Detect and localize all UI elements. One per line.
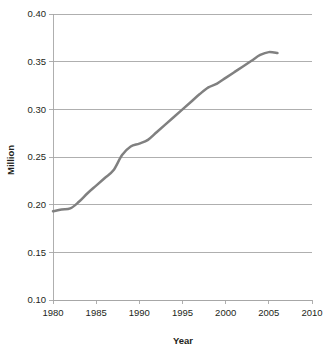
gridlines: [53, 14, 312, 300]
y-axis-title: Million: [5, 145, 16, 175]
x-tick-label-1: 1985: [86, 307, 107, 318]
y-tick-label-4: 0.30: [28, 104, 47, 115]
x-tick-label-6: 2010: [301, 307, 322, 318]
x-tick-label-5: 2005: [258, 307, 279, 318]
y-axis-tick-marks: [49, 14, 53, 300]
x-tick-label-4: 2000: [215, 307, 236, 318]
x-axis-tick-marks: [53, 300, 312, 304]
y-tick-label-1: 0.15: [28, 247, 47, 258]
y-axis-tick-labels: 0.100.150.200.250.300.350.40: [28, 8, 47, 305]
y-tick-label-3: 0.25: [28, 151, 47, 162]
y-tick-label-0: 0.10: [28, 294, 47, 305]
x-axis-title: Year: [173, 335, 193, 346]
y-tick-label-6: 0.40: [28, 8, 47, 19]
x-tick-label-0: 1980: [42, 307, 63, 318]
x-tick-label-3: 1995: [172, 307, 193, 318]
chart-canvas: 0.100.150.200.250.300.350.40 19801985199…: [0, 0, 328, 351]
line-chart: 0.100.150.200.250.300.350.40 19801985199…: [0, 0, 328, 351]
data-series-line: [53, 52, 277, 211]
y-tick-label-5: 0.35: [28, 56, 47, 67]
x-tick-label-2: 1990: [129, 307, 150, 318]
x-axis-tick-labels: 1980198519901995200020052010: [42, 307, 322, 318]
y-tick-label-2: 0.20: [28, 199, 47, 210]
